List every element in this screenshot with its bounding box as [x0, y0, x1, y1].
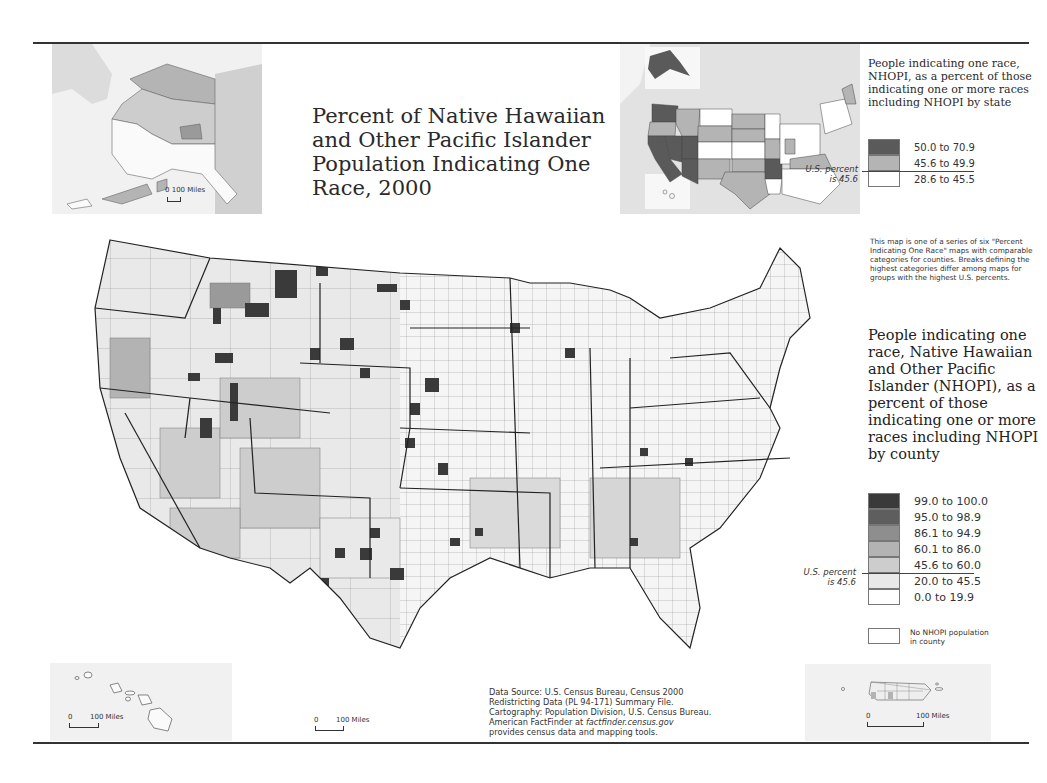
title-line-2: and Other Pacific Islander — [312, 128, 632, 152]
series-note: This map is one of a series of six "Perc… — [870, 237, 1040, 282]
main-map-scale-bar: 0 100 Miles — [314, 716, 384, 724]
county-legend-item-1: 99.0 to 100.0 — [868, 493, 988, 509]
data-source-note: Data Source: U.S. Census Bureau, Census … — [489, 687, 789, 737]
county-legend-label-1: 99.0 to 100.0 — [914, 495, 988, 508]
county-legend-item-6: 20.0 to 45.5 — [868, 573, 981, 589]
county-swatch-4 — [868, 541, 900, 557]
source-line-4: American FactFinder at factfinder.census… — [489, 717, 789, 727]
county-swatch-1 — [868, 493, 900, 509]
county-legend-label-7: 0.0 to 19.9 — [914, 591, 974, 604]
puerto-rico-scale-zero: 0 — [866, 712, 870, 720]
county-legend-label-3: 86.1 to 94.9 — [914, 527, 981, 540]
county-legend-item-2: 95.0 to 98.9 — [868, 509, 981, 525]
county-choropleth-map — [70, 228, 860, 668]
state-legend-item-2: 45.6 to 49.9 — [868, 155, 975, 171]
source-line-1: Data Source: U.S. Census Bureau, Census … — [489, 687, 789, 697]
county-us-percent-line — [862, 573, 974, 574]
hawaii-map — [50, 663, 232, 741]
state-level-map — [620, 44, 860, 214]
county-legend-item-4: 60.1 to 86.0 — [868, 541, 981, 557]
hawaii-inset: 0 100 Miles — [50, 663, 232, 741]
state-legend-title: People indicating one race, NHOPI, as a … — [868, 57, 1038, 109]
county-swatch-5 — [868, 557, 900, 573]
alaska-inset: 0 100 Miles — [52, 44, 262, 214]
state-us-percent-note: U.S. percent is 45.6 — [790, 164, 858, 184]
county-swatch-3 — [868, 525, 900, 541]
state-legend-label-1: 50.0 to 70.9 — [914, 142, 975, 153]
no-population-swatch — [868, 628, 900, 644]
state-swatch-3 — [868, 171, 900, 187]
puerto-rico-scale-bar: 0 100 Miles — [866, 712, 976, 720]
main-scale-label: 100 Miles — [336, 716, 369, 724]
state-swatch-2 — [868, 155, 900, 171]
puerto-rico-inset: 0 100 Miles — [805, 664, 991, 741]
county-legend-item-5: 45.6 to 60.0 — [868, 557, 981, 573]
county-swatch-6 — [868, 573, 900, 589]
state-us-percent-line1: U.S. percent — [790, 164, 858, 174]
puerto-rico-scale-label: 100 Miles — [916, 712, 949, 720]
alaska-map — [52, 44, 262, 214]
state-legend-item-3: 28.6 to 45.5 — [868, 171, 975, 187]
alaska-scale-bar: 0 100 Miles — [165, 186, 205, 194]
county-legend-label-6: 20.0 to 45.5 — [914, 575, 981, 588]
map-title: Percent of Native Hawaiian and Other Pac… — [312, 104, 632, 200]
state-swatch-1 — [868, 139, 900, 155]
county-legend-label-2: 95.0 to 98.9 — [914, 511, 981, 524]
state-map-panel — [620, 44, 860, 214]
state-legend-item-1: 50.0 to 70.9 — [868, 139, 975, 155]
county-swatch-2 — [868, 509, 900, 525]
title-line-1: Percent of Native Hawaiian — [312, 104, 632, 128]
hawaii-scale-bar: 0 100 Miles — [68, 713, 138, 721]
county-legend-label-5: 45.6 to 60.0 — [914, 559, 981, 572]
county-legend-title: People indicating one race, Native Hawai… — [868, 327, 1043, 463]
state-legend-label-2: 45.6 to 49.9 — [914, 158, 975, 169]
main-scale-zero: 0 — [314, 716, 318, 724]
source-line-3: Cartography: Population Division, U.S. C… — [489, 707, 789, 717]
title-line-3: Population Indicating One — [312, 152, 632, 176]
hawaii-scale-zero: 0 — [68, 713, 72, 721]
title-line-4: Race, 2000 — [312, 176, 632, 200]
no-population-legend: No NHOPI population in county — [868, 628, 990, 646]
source-line-5: provides census data and mapping tools. — [489, 727, 789, 737]
no-population-label: No NHOPI population in county — [910, 628, 990, 646]
county-legend-item-3: 86.1 to 94.9 — [868, 525, 981, 541]
hawaii-scale-label: 100 Miles — [90, 713, 123, 721]
state-us-percent-line2: is 45.6 — [790, 174, 858, 184]
county-swatch-7 — [868, 589, 900, 605]
state-us-percent-line — [862, 171, 974, 172]
county-legend-item-7: 0.0 to 19.9 — [868, 589, 974, 605]
source-line-4-prefix: American FactFinder at — [489, 717, 586, 727]
puerto-rico-map — [805, 664, 991, 741]
source-line-2: Redistricting Data (PL 94-171) Summary F… — [489, 697, 789, 707]
bottom-rule — [33, 742, 1029, 744]
factfinder-link[interactable]: factfinder.census.gov — [586, 717, 674, 727]
state-legend-label-3: 28.6 to 45.5 — [914, 174, 975, 185]
alaska-scale-label: 0 100 Miles — [165, 186, 205, 194]
county-legend-label-4: 60.1 to 86.0 — [914, 543, 981, 556]
